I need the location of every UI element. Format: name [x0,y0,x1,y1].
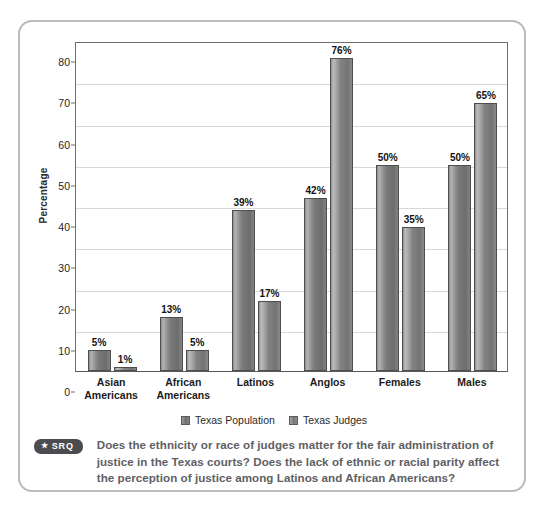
bar-group: 39%17% [232,43,281,371]
gridline [76,332,507,333]
bar [186,350,209,371]
srq-note: ★ SRQ Does the ethnicity or race of judg… [34,437,514,487]
bar-group: 13%5% [160,43,209,371]
legend-label: Texas Judges [303,414,367,426]
gridline [76,84,507,85]
bar [376,165,399,371]
bar-group: 50%35% [376,43,425,371]
y-tick-label: 40 [36,221,70,233]
legend-swatch-icon [181,416,190,425]
gridline [76,126,507,127]
plot-area: 5%1%13%5%39%17%42%76%50%35%50%65% [75,42,508,372]
legend-swatch-icon [289,416,298,425]
bar-chart: Percentage 01020304050607080 5%1%13%5%39… [20,22,528,407]
bar [402,227,425,371]
x-tick-label-line: Males [424,376,520,389]
star-icon: ★ [41,442,49,450]
y-tick-label: 30 [36,262,70,274]
x-tick-label-line: Americans [135,389,231,402]
y-tick-label: 20 [36,304,70,316]
srq-badge-label: SRQ [52,441,74,451]
bar [258,301,281,371]
x-axis-labels: AsianAmericansAfricanAmericansLatinosAng… [75,376,508,410]
bar-value-label: 76% [319,45,365,56]
bar-value-label: 35% [391,214,437,225]
gridline [76,249,507,250]
bar [304,198,327,371]
legend-item-texas-population: Texas Population [181,414,275,426]
y-tick-label: 50 [36,180,70,192]
x-tick-label: Males [424,376,520,389]
bar-value-label: 1% [102,354,148,365]
y-tick-label: 10 [36,345,70,357]
bar-value-label: 39% [220,197,266,208]
bar [474,103,497,371]
gridline [76,167,507,168]
bar [448,165,471,371]
bar-value-label: 65% [463,90,509,101]
srq-question-text: Does the ethnicity or race of judges mat… [97,437,514,487]
bar-group: 42%76% [304,43,353,371]
bar-value-label: 5% [76,337,122,348]
srq-badge: ★ SRQ [34,439,83,454]
legend-item-texas-judges: Texas Judges [289,414,367,426]
y-tick-label: 70 [36,97,70,109]
bar-value-label: 17% [246,288,292,299]
y-tick-label: 80 [36,56,70,68]
bar-group: 5%1% [88,43,137,371]
y-tick-label: 60 [36,139,70,151]
y-axis-ticks: 01020304050607080 [30,42,70,372]
gridline [76,208,507,209]
bar-value-label: 5% [174,337,220,348]
bar-value-label: 50% [365,152,411,163]
legend-label: Texas Population [195,414,275,426]
figure-card: Percentage 01020304050607080 5%1%13%5%39… [18,20,526,492]
chart-legend: Texas Population Texas Judges [20,414,528,426]
bar [114,367,137,371]
bar-group: 50%65% [448,43,497,371]
bar-value-label: 13% [148,304,194,315]
bar [330,58,353,372]
